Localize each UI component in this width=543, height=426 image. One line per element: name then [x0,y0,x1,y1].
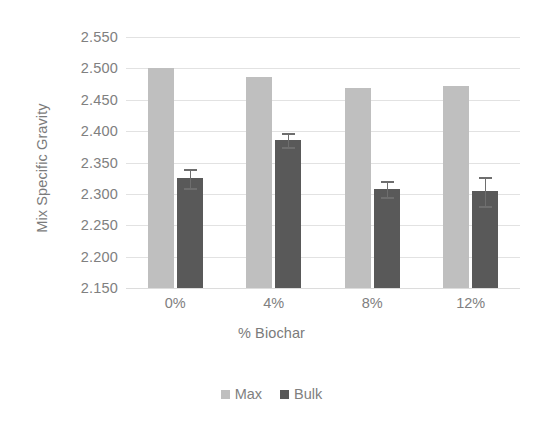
y-axis-tick-label: 2.350 [30,155,118,171]
x-axis-tick-label: 8% [362,295,383,311]
error-bar-cap-lower [479,206,492,208]
error-bar-cap-upper [381,181,394,183]
legend-swatch-bulk-icon [280,390,289,399]
x-axis-title: % Biochar [0,325,543,341]
bar-chart: Mix Specific Gravity 2.5502.5002.4502.40… [0,0,543,426]
legend-swatch-max-icon [221,390,230,399]
x-axis-tick-label: 0% [165,295,186,311]
legend-label: Bulk [294,386,322,402]
error-bar-line [387,181,388,197]
legend-item-bulk: Bulk [280,386,322,402]
bar-bulk-0pct [177,178,203,288]
x-axis-tick-label: 4% [263,295,284,311]
x-axis-tick-label: 12% [456,295,485,311]
error-bar-cap-lower [381,197,394,199]
bar-bulk-8pct [374,189,400,288]
legend-label: Max [235,386,262,402]
bar-max-8pct [345,88,371,288]
y-axis-tick-label: 2.200 [30,249,118,265]
y-axis-tick-label: 2.450 [30,92,118,108]
plot-area [126,37,520,288]
bar-max-12pct [443,86,469,288]
y-axis-tick-label: 2.150 [30,280,118,296]
error-bar-cap-lower [282,147,295,149]
error-bar-cap-lower [184,188,197,190]
error-bar-line [485,177,486,206]
error-bar-cap-upper [479,177,492,179]
error-bar-cap-upper [282,133,295,135]
bar-bulk-4pct [275,140,301,288]
gridline [126,37,520,38]
y-axis-tick-label: 2.500 [30,60,118,76]
gridline [126,68,520,69]
error-bar-line [190,169,191,188]
y-axis-tick-label: 2.400 [30,123,118,139]
bar-max-4pct [246,77,272,288]
y-axis-tick-label: 2.550 [30,29,118,45]
legend-item-max: Max [221,386,262,402]
error-bar-line [288,133,289,147]
bar-max-0pct [148,68,174,288]
chart-legend: MaxBulk [0,386,543,402]
y-axis-tick-label: 2.300 [30,186,118,202]
error-bar-cap-upper [184,169,197,171]
y-axis-tick-label: 2.250 [30,217,118,233]
gridline [126,288,520,289]
